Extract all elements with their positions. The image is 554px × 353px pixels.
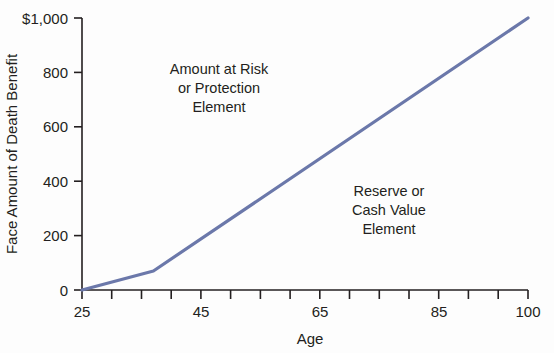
x-tick-label-25: 25 (74, 303, 91, 320)
y-tick-label-400: 400 (43, 173, 68, 190)
annotation-line-3: Element (192, 99, 245, 115)
y-axis-ticks (74, 18, 82, 290)
x-tick-label-100: 100 (515, 303, 540, 320)
chart-page: 0 200 400 600 800 $1,000 25 45 65 (0, 0, 554, 353)
annotation-line-2: Cash Value (352, 202, 426, 218)
x-tick-label-45: 45 (193, 303, 210, 320)
x-axis-ticks (82, 290, 528, 299)
annotation-line-3: Element (362, 221, 415, 237)
y-tick-label-0: 0 (60, 282, 68, 299)
annotation-line-1: Reserve or (354, 183, 425, 199)
y-tick-label-600: 600 (43, 118, 68, 135)
annotation-line-2: or Protection (178, 80, 260, 96)
series-line-cash-value (82, 18, 528, 290)
y-axis-title: Face Amount of Death Benefit (3, 53, 20, 254)
annotation-reserve-or-cash-value: Reserve or Cash Value Element (352, 183, 426, 237)
y-tick-label-800: 800 (43, 64, 68, 81)
x-tick-label-65: 65 (312, 303, 329, 320)
line-chart: 0 200 400 600 800 $1,000 25 45 65 (0, 0, 554, 353)
annotation-line-1: Amount at Risk (170, 61, 269, 77)
annotation-amount-at-risk: Amount at Risk or Protection Element (170, 61, 269, 115)
y-tick-label-1000: $1,000 (22, 10, 68, 27)
y-tick-label-200: 200 (43, 227, 68, 244)
x-tick-label-85: 85 (431, 303, 448, 320)
x-axis-title: Age (297, 330, 324, 347)
